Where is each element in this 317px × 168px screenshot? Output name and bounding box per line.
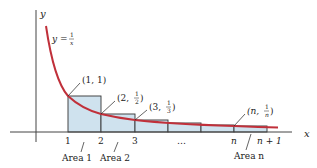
curve-label-den: x: [70, 39, 74, 46]
tick-n: n: [231, 136, 237, 146]
tick-ellipsis: …: [177, 136, 186, 146]
harmonic-area-diagram: y x y = 1 x (1, 1) (2, 1 2 ) (3, 1 3 ) (…: [0, 0, 317, 168]
svg-text:3: 3: [167, 107, 171, 114]
svg-text:): ): [172, 102, 176, 112]
svg-text:1: 1: [135, 90, 139, 97]
svg-text:1: 1: [265, 103, 269, 110]
x-axis-label: x: [304, 128, 310, 139]
svg-text:): ): [140, 93, 144, 103]
svg-text:): ): [270, 106, 274, 116]
tick-n-plus-1: n + 1: [257, 136, 282, 146]
svg-text:1: 1: [167, 99, 171, 106]
curve-label-num: 1: [70, 31, 74, 38]
area-2-label: Area 2: [99, 153, 130, 163]
point-label-3: (3,: [149, 102, 161, 112]
area-n-label: Area n: [233, 151, 264, 161]
tick-2: 2: [98, 136, 104, 146]
point-label-2: (2,: [117, 93, 129, 103]
svg-text:2: 2: [135, 98, 139, 105]
tick-1: 1: [65, 136, 71, 146]
area-1-label: Area 1: [61, 153, 92, 163]
svg-text:n: n: [265, 111, 269, 118]
curve-label: y =: [51, 34, 68, 44]
tick-3: 3: [132, 136, 138, 146]
point-label-1: (1, 1): [82, 75, 106, 85]
y-axis-label: y: [39, 8, 46, 19]
point-label-n: (n,: [247, 106, 259, 116]
